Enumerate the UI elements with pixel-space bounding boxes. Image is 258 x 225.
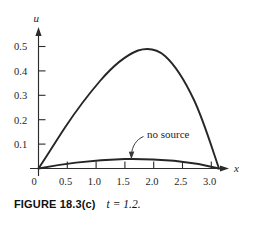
y-tick-label-0.2: 0.2 [14, 115, 27, 126]
x-axis-label: x [233, 162, 239, 174]
figure-container: no source u x 0.5 0.4 0.3 0.2 0.1 0 0.5 … [0, 0, 258, 225]
y-tick-label-0.5: 0.5 [14, 41, 27, 52]
x-tick-label-0.5: 0.5 [59, 176, 72, 187]
x-tick-label-3.0: 3.0 [203, 176, 216, 187]
x-tick-label-2.0: 2.0 [145, 176, 158, 187]
y-tick-label-0.4: 0.4 [14, 66, 28, 77]
x-axis-arrowhead [220, 165, 229, 171]
y-tick-label-0.1: 0.1 [14, 139, 27, 150]
origin-label: 0 [32, 176, 37, 187]
y-axis-label: u [34, 12, 40, 24]
y-axis-arrowhead [35, 27, 41, 36]
curve-no-source [39, 159, 220, 169]
figure-caption: FIGURE 18.3(c) t = 1.2. [14, 198, 254, 218]
y-tick-label-0.3: 0.3 [14, 90, 27, 101]
x-tick-label-1.5: 1.5 [117, 176, 130, 187]
curve-with-source [39, 49, 220, 168]
x-tick-label-1.0: 1.0 [88, 176, 101, 187]
plot-area: no source u x 0.5 0.4 0.3 0.2 0.1 0 0.5 … [0, 0, 258, 200]
no-source-annotation: no source [147, 128, 190, 140]
caption-parameter: t = 1.2. [107, 198, 141, 210]
caption-figure-number: FIGURE 18.3(c) [14, 198, 96, 210]
x-tick-label-2.5: 2.5 [174, 176, 187, 187]
